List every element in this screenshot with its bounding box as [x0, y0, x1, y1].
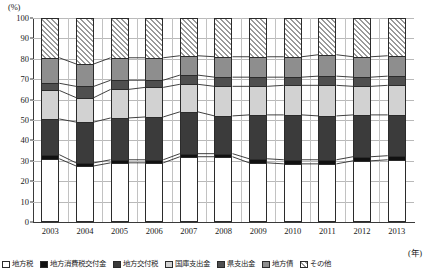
bar-segment-pref[interactable]: [76, 86, 94, 97]
bar-segment-national[interactable]: [41, 90, 59, 119]
bar-segment-bonds[interactable]: [214, 57, 232, 77]
bar-segment-local-tax[interactable]: [388, 160, 406, 222]
bar-segment-other[interactable]: [145, 18, 163, 58]
bar-segment-local-tax[interactable]: [353, 161, 371, 222]
bar-segment-consumption[interactable]: [249, 159, 267, 163]
legend-item-bonds[interactable]: 地方債: [262, 260, 293, 267]
bar-segment-bonds[interactable]: [318, 55, 336, 76]
bar-segment-other[interactable]: [180, 18, 198, 56]
bar-segment-local-tax[interactable]: [111, 163, 129, 222]
bar-segment-other[interactable]: [249, 18, 267, 57]
bar-segment-pref[interactable]: [180, 75, 198, 84]
bar-segment-pref[interactable]: [284, 77, 302, 85]
bar-segment-national[interactable]: [318, 85, 336, 116]
bar-segment-consumption[interactable]: [353, 157, 371, 161]
connector-line: [59, 119, 76, 122]
bar-2012[interactable]: [353, 18, 371, 222]
legend-item-other[interactable]: その他: [300, 260, 331, 267]
bar-2007[interactable]: [180, 18, 198, 222]
bar-segment-other[interactable]: [318, 18, 336, 55]
bar-segment-national[interactable]: [388, 85, 406, 115]
bar-segment-grant-tax[interactable]: [145, 117, 163, 160]
bar-segment-national[interactable]: [214, 86, 232, 116]
bar-segment-grant-tax[interactable]: [284, 115, 302, 160]
x-axis-tick-label: 2013: [388, 227, 405, 236]
bar-segment-local-tax[interactable]: [41, 159, 59, 222]
bar-2011[interactable]: [318, 18, 336, 222]
bar-2009[interactable]: [249, 18, 267, 222]
bar-segment-local-tax[interactable]: [76, 166, 94, 222]
bar-segment-bonds[interactable]: [145, 58, 163, 80]
bar-segment-grant-tax[interactable]: [111, 118, 129, 160]
bar-segment-consumption[interactable]: [180, 154, 198, 157]
bar-2006[interactable]: [145, 18, 163, 222]
bar-segment-national[interactable]: [353, 86, 371, 115]
bar-2003[interactable]: [41, 18, 59, 222]
bar-segment-other[interactable]: [76, 18, 94, 64]
bar-segment-national[interactable]: [249, 86, 267, 115]
bar-segment-grant-tax[interactable]: [388, 115, 406, 156]
legend-item-grant-tax[interactable]: 地方交付税: [113, 260, 158, 267]
bar-segment-grant-tax[interactable]: [76, 122, 94, 163]
bar-segment-local-tax[interactable]: [180, 157, 198, 222]
bar-segment-grant-tax[interactable]: [249, 115, 267, 159]
bar-segment-bonds[interactable]: [249, 57, 267, 77]
bar-segment-local-tax[interactable]: [318, 164, 336, 222]
bar-segment-grant-tax[interactable]: [214, 116, 232, 154]
bar-segment-bonds[interactable]: [180, 56, 198, 75]
bar-segment-national[interactable]: [145, 87, 163, 117]
bar-segment-other[interactable]: [111, 18, 129, 58]
bar-segment-national[interactable]: [76, 98, 94, 122]
bar-segment-local-tax[interactable]: [214, 157, 232, 222]
bar-segment-pref[interactable]: [353, 77, 371, 86]
bar-segment-pref[interactable]: [145, 80, 163, 87]
bar-segment-bonds[interactable]: [388, 56, 406, 76]
bar-segment-bonds[interactable]: [353, 57, 371, 77]
bar-segment-local-tax[interactable]: [249, 163, 267, 222]
bar-segment-national[interactable]: [180, 84, 198, 112]
bar-segment-grant-tax[interactable]: [41, 119, 59, 155]
bar-segment-consumption[interactable]: [318, 160, 336, 164]
bar-segment-local-tax[interactable]: [145, 163, 163, 222]
connector-line: [371, 156, 388, 157]
bar-segment-pref[interactable]: [388, 76, 406, 85]
bar-segment-other[interactable]: [353, 18, 371, 57]
bar-2004[interactable]: [76, 18, 94, 222]
bar-segment-other[interactable]: [388, 18, 406, 56]
bar-2010[interactable]: [284, 18, 302, 222]
bar-segment-consumption[interactable]: [41, 155, 59, 159]
bar-segment-pref[interactable]: [214, 77, 232, 86]
bar-segment-other[interactable]: [214, 18, 232, 57]
bar-segment-other[interactable]: [41, 18, 59, 58]
bar-segment-consumption[interactable]: [111, 160, 129, 163]
bar-segment-local-tax[interactable]: [284, 164, 302, 222]
bar-segment-consumption[interactable]: [284, 160, 302, 164]
legend-item-pref[interactable]: 県支出金: [217, 260, 255, 267]
bar-segment-pref[interactable]: [41, 83, 59, 90]
bar-segment-consumption[interactable]: [145, 160, 163, 163]
legend-swatch-icon: [217, 261, 225, 268]
legend-item-consumption[interactable]: 地方消費税交付金: [40, 260, 106, 267]
bar-segment-bonds[interactable]: [111, 58, 129, 80]
connector-line: [302, 55, 319, 57]
bar-segment-consumption[interactable]: [214, 154, 232, 157]
legend-item-national[interactable]: 国庫支出金: [165, 260, 210, 267]
bar-segment-grant-tax[interactable]: [318, 116, 336, 160]
bar-segment-grant-tax[interactable]: [180, 112, 198, 154]
bar-segment-bonds[interactable]: [41, 58, 59, 84]
bar-2013[interactable]: [388, 18, 406, 222]
bar-segment-bonds[interactable]: [76, 64, 94, 86]
bar-segment-bonds[interactable]: [284, 57, 302, 77]
bar-2005[interactable]: [111, 18, 129, 222]
bar-segment-pref[interactable]: [249, 77, 267, 86]
bar-segment-national[interactable]: [284, 85, 302, 115]
bar-segment-pref[interactable]: [111, 80, 129, 89]
bar-segment-consumption[interactable]: [388, 156, 406, 160]
bar-segment-pref[interactable]: [318, 76, 336, 85]
bar-segment-other[interactable]: [284, 18, 302, 57]
bar-segment-grant-tax[interactable]: [353, 115, 371, 157]
bar-2008[interactable]: [214, 18, 232, 222]
bar-segment-consumption[interactable]: [76, 163, 94, 166]
bar-segment-national[interactable]: [111, 89, 129, 118]
legend-item-local-tax[interactable]: 地方税: [2, 260, 33, 267]
